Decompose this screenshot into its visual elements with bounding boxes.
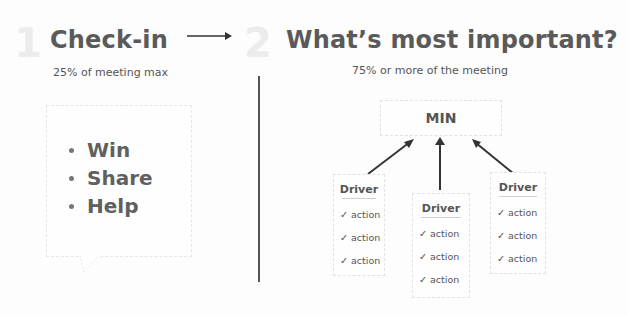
- driver-title: Driver: [334, 183, 384, 196]
- step-number-1: 1: [14, 20, 42, 66]
- check-icon: ✓: [340, 209, 348, 220]
- check-icon: ✓: [419, 228, 427, 239]
- action-item: ✓action: [491, 201, 545, 224]
- driver-card-2: Driver ✓action ✓action ✓action: [412, 193, 470, 298]
- checkin-speech-bubble: Win Share Help: [46, 105, 192, 257]
- action-item: ✓action: [413, 245, 469, 268]
- checkin-bullet-list: Win Share Help: [65, 136, 191, 220]
- bullet-share: Share: [65, 164, 191, 192]
- action-item: ✓action: [334, 226, 384, 249]
- min-box: MIN: [380, 100, 502, 136]
- right-arrow-icon: [186, 30, 234, 42]
- min-label: MIN: [381, 101, 501, 135]
- driver-underline: [499, 196, 537, 197]
- driver-card-1: Driver ✓action ✓action ✓action: [333, 174, 385, 276]
- check-icon: ✓: [497, 230, 505, 241]
- action-item: ✓action: [413, 222, 469, 245]
- check-icon: ✓: [419, 251, 427, 262]
- action-item: ✓action: [491, 224, 545, 247]
- action-item: ✓action: [334, 249, 384, 272]
- action-item: ✓action: [334, 203, 384, 226]
- speech-bubble-tail-icon: [76, 254, 106, 276]
- check-icon: ✓: [419, 274, 427, 285]
- driver-title: Driver: [413, 202, 469, 215]
- checkin-subtitle: 25% of meeting max: [53, 66, 168, 79]
- action-item: ✓action: [413, 268, 469, 291]
- bullet-help: Help: [65, 192, 191, 220]
- check-icon: ✓: [497, 253, 505, 264]
- driver-card-3: Driver ✓action ✓action ✓action: [490, 172, 546, 274]
- checkin-title: Check-in: [50, 26, 168, 54]
- driver-underline: [342, 198, 376, 199]
- section-divider: [258, 76, 260, 282]
- bullet-win: Win: [65, 136, 191, 164]
- step-number-2: 2: [244, 20, 272, 66]
- driver-underline: [421, 217, 461, 218]
- action-item: ✓action: [491, 247, 545, 270]
- check-icon: ✓: [497, 207, 505, 218]
- check-icon: ✓: [340, 232, 348, 243]
- important-title: What’s most important?: [286, 26, 618, 54]
- check-icon: ✓: [340, 255, 348, 266]
- important-subtitle: 75% or more of the meeting: [352, 64, 508, 77]
- driver-title: Driver: [491, 181, 545, 194]
